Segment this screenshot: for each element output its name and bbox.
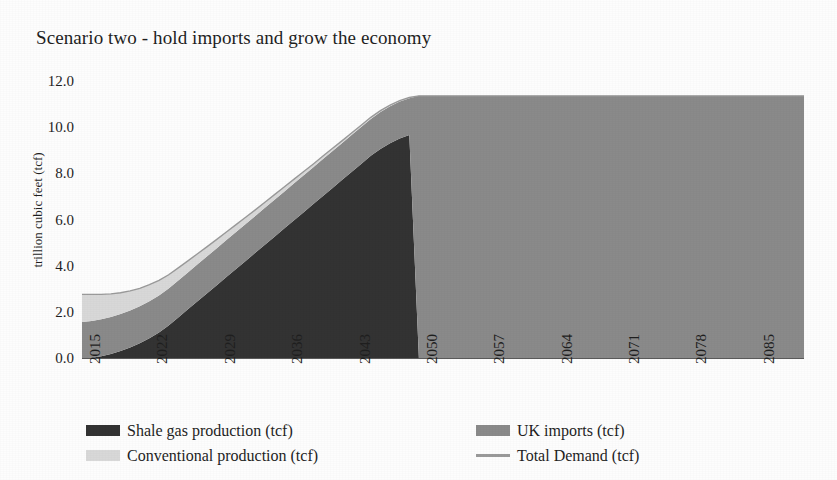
y-tick-label: 6.0 xyxy=(26,213,74,228)
legend-item[interactable]: UK imports (tcf) xyxy=(476,422,806,440)
legend-item[interactable]: Total Demand (tcf) xyxy=(476,447,806,465)
y-tick-label: 12.0 xyxy=(26,74,74,89)
legend-label: Conventional production (tcf) xyxy=(127,447,318,465)
legend-item[interactable]: Conventional production (tcf) xyxy=(86,447,476,465)
legend-label: UK imports (tcf) xyxy=(517,422,625,440)
y-tick-label: 4.0 xyxy=(26,259,74,274)
legend-swatch-icon xyxy=(86,450,120,461)
legend-swatch-icon xyxy=(476,425,510,436)
y-tick-label: 8.0 xyxy=(26,166,74,181)
legend-label: Shale gas production (tcf) xyxy=(127,422,293,440)
chart-legend: Shale gas production (tcf)UK imports (tc… xyxy=(86,418,786,468)
chart-figure: Scenario two - hold imports and grow the… xyxy=(0,0,837,480)
y-axis-ticks: 0.02.04.06.08.010.012.0 xyxy=(22,0,74,480)
legend-item[interactable]: Shale gas production (tcf) xyxy=(86,422,476,440)
stacked-area-svg xyxy=(82,82,804,359)
legend-swatch-icon xyxy=(86,425,120,436)
y-tick-label: 0.0 xyxy=(26,351,74,366)
legend-swatch-icon xyxy=(476,454,510,457)
plot-area xyxy=(82,82,804,359)
y-tick-label: 2.0 xyxy=(26,305,74,320)
legend-label: Total Demand (tcf) xyxy=(517,447,639,465)
chart-title: Scenario two - hold imports and grow the… xyxy=(36,27,431,49)
x-axis-line xyxy=(82,358,804,359)
area-series-group xyxy=(82,96,804,359)
y-tick-label: 10.0 xyxy=(26,120,74,135)
